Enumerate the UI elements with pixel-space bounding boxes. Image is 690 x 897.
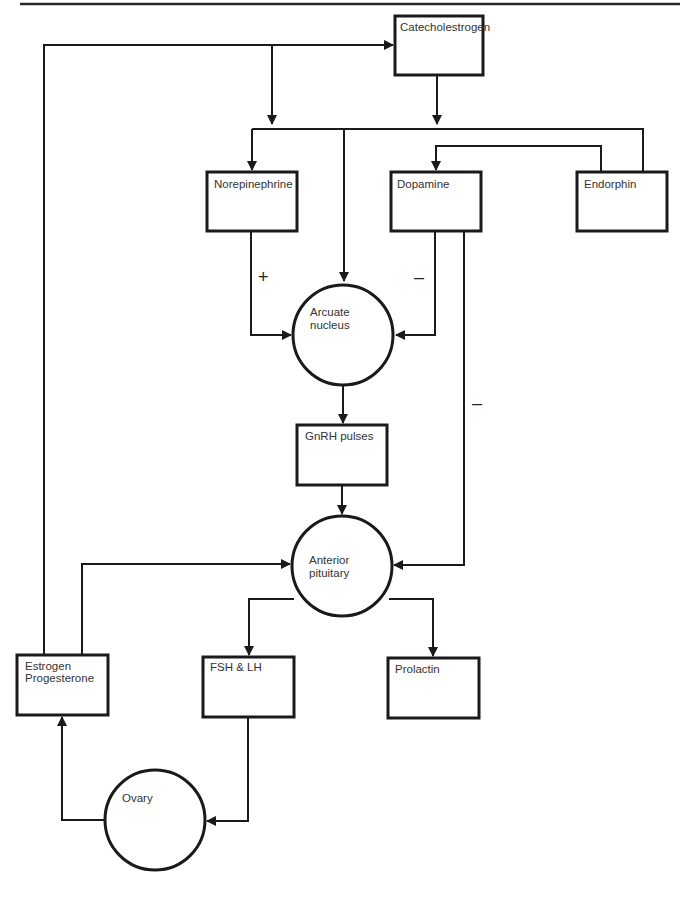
node-gnrh-pulses: GnRH pulses bbox=[297, 425, 387, 485]
label-arcuate-line2: nucleus bbox=[310, 319, 350, 331]
label-fshlh: FSH & LH bbox=[210, 661, 262, 673]
sign-minus-dopamine-pituitary: – bbox=[472, 393, 482, 413]
edge-ovary-to-estrogen bbox=[62, 717, 105, 820]
label-gnrh: GnRH pulses bbox=[305, 430, 374, 442]
edge-pituitary-to-fshlh bbox=[249, 599, 294, 655]
label-arcuate-line1: Arcuate bbox=[310, 306, 350, 318]
node-fsh-lh: FSH & LH bbox=[203, 657, 294, 717]
edge-pituitary-to-prolactin bbox=[389, 599, 433, 656]
sign-minus-dopamine-arcuate: – bbox=[414, 267, 424, 287]
node-ovary: Ovary bbox=[105, 770, 205, 870]
node-catecholestrogen: Catecholestrogen bbox=[395, 16, 490, 75]
label-catecholestrogen: Catecholestrogen bbox=[400, 21, 490, 33]
label-estrogen-line2: Progesterone bbox=[25, 672, 94, 684]
node-arcuate-nucleus: Arcuate nucleus bbox=[293, 285, 393, 385]
label-ovary: Ovary bbox=[122, 792, 153, 804]
label-norepinephrine: Norepinephrine bbox=[214, 178, 293, 190]
label-endorphin: Endorphin bbox=[584, 178, 636, 190]
edge-bus bbox=[252, 129, 643, 172]
label-pituitary-line1: Anterior bbox=[309, 554, 349, 566]
edge-norepinephrine-to-arcuate bbox=[251, 231, 291, 335]
node-anterior-pituitary: Anterior pituitary bbox=[292, 516, 392, 616]
label-estrogen-line1: Estrogen bbox=[25, 660, 71, 672]
edge-endorphin-to-dopamine bbox=[436, 146, 601, 172]
edge-fshlh-to-ovary bbox=[207, 717, 248, 821]
node-endorphin: Endorphin bbox=[577, 172, 667, 231]
label-dopamine: Dopamine bbox=[397, 178, 449, 190]
sign-plus-norepinephrine: + bbox=[258, 267, 269, 287]
node-prolactin: Prolactin bbox=[388, 658, 479, 718]
edge-dopamine-to-pituitary bbox=[394, 231, 464, 565]
edge-estrogen-to-pituitary bbox=[82, 564, 290, 655]
node-estrogen-progesterone: Estrogen Progesterone bbox=[17, 655, 108, 715]
label-pituitary-line2: pituitary bbox=[309, 567, 350, 579]
diagram-canvas: + – – Catecholestrogen Norepinephrine Do… bbox=[0, 0, 690, 897]
node-dopamine: Dopamine bbox=[391, 172, 481, 231]
label-prolactin: Prolactin bbox=[395, 663, 440, 675]
node-norepinephrine: Norepinephrine bbox=[207, 172, 297, 231]
